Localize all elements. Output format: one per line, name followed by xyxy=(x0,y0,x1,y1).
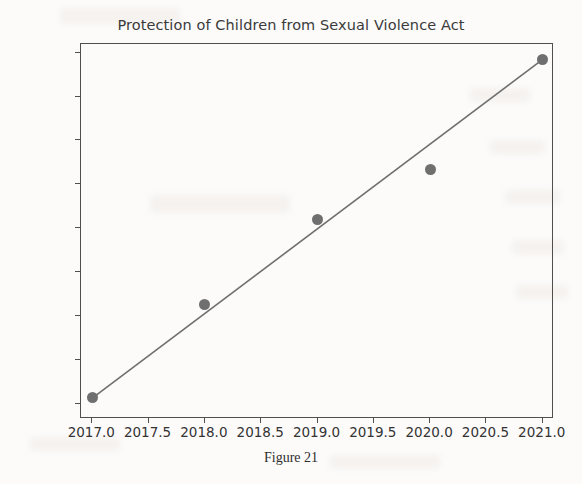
data-point xyxy=(312,214,323,225)
x-axis-tick-mark xyxy=(485,418,486,423)
figure-page: Protection of Children from Sexual Viole… xyxy=(0,0,582,484)
x-axis-tick-label: 2018.0 xyxy=(180,424,227,440)
y-axis-tick-mark xyxy=(75,139,80,140)
y-axis-tick-mark xyxy=(75,271,80,272)
y-axis-tick-mark xyxy=(75,183,80,184)
x-axis-tick-mark xyxy=(317,418,318,423)
chart-title: Protection of Children from Sexual Viole… xyxy=(0,17,582,33)
data-point xyxy=(87,392,98,403)
x-axis-tick-mark xyxy=(91,418,92,423)
x-axis-tick-mark xyxy=(148,418,149,423)
y-axis-tick-mark xyxy=(75,403,80,404)
x-axis-tick-mark xyxy=(429,418,430,423)
x-axis-tick-label: 2020.0 xyxy=(405,424,452,440)
x-axis-tick-mark xyxy=(204,418,205,423)
plot-canvas xyxy=(81,44,552,417)
y-axis-tick-mark xyxy=(75,52,80,53)
data-point xyxy=(425,164,436,175)
y-axis-tick-mark xyxy=(75,96,80,97)
y-axis-tick-mark xyxy=(75,227,80,228)
x-axis-tick-mark xyxy=(260,418,261,423)
x-axis-tick-label: 2019.5 xyxy=(349,424,396,440)
figure-caption: Figure 21 xyxy=(0,450,582,466)
data-point xyxy=(537,54,548,65)
x-axis-tick-mark xyxy=(373,418,374,423)
y-axis-tick-mark xyxy=(75,315,80,316)
x-axis-tick-label: 2017.0 xyxy=(68,424,115,440)
x-axis-tick-mark xyxy=(542,418,543,423)
x-axis-tick-label: 2018.5 xyxy=(237,424,284,440)
x-axis-tick-label: 2020.5 xyxy=(462,424,509,440)
x-axis-tick-label: 2021.0 xyxy=(518,424,565,440)
plot-area xyxy=(80,43,553,418)
x-axis-tick-label: 2019.0 xyxy=(293,424,340,440)
x-axis-tick-label: 2017.5 xyxy=(124,424,171,440)
trend-line xyxy=(81,44,554,419)
y-axis-tick-mark xyxy=(75,359,80,360)
